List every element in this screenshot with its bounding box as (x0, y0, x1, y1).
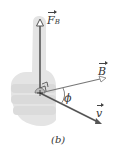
force-symbol: F (47, 15, 55, 26)
angle-label: ϕ (64, 93, 72, 104)
velocity-label: v (96, 108, 102, 119)
force-label: FB (47, 15, 60, 26)
field-symbol: B (98, 66, 106, 77)
velocity-symbol: v (96, 108, 102, 119)
thumbs-up-hand (11, 16, 56, 126)
right-hand-rule-diagram: FB B v ϕ (b) (0, 0, 114, 153)
figure-caption: (b) (51, 135, 65, 145)
field-label: B (98, 66, 106, 77)
force-subscript: B (55, 18, 60, 26)
